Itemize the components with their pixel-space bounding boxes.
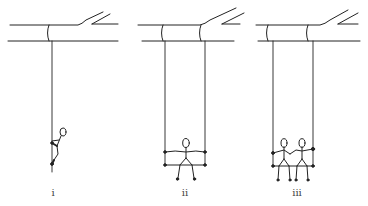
seated-figure-icon	[164, 139, 207, 181]
panel-label-ii: ii	[182, 188, 188, 198]
rope	[273, 41, 313, 166]
panel-i	[8, 12, 118, 172]
seated-figure-icon	[273, 139, 291, 181]
swing-seat	[164, 164, 207, 167]
swing-diagram: i ii iii	[0, 0, 368, 206]
tree-branch-icon	[256, 10, 360, 41]
swing-seat	[272, 165, 315, 168]
tree-branch-icon	[8, 12, 118, 41]
rope	[165, 41, 205, 164]
climbing-figure-icon	[51, 128, 66, 165]
panel-ii	[138, 8, 244, 180]
hands	[272, 147, 315, 154]
panel-iii	[256, 10, 360, 181]
panel-label-iii: iii	[292, 188, 302, 198]
tree-branch-icon	[138, 8, 244, 41]
seated-figure-icon	[290, 139, 313, 181]
panel-label-i: i	[51, 188, 54, 198]
